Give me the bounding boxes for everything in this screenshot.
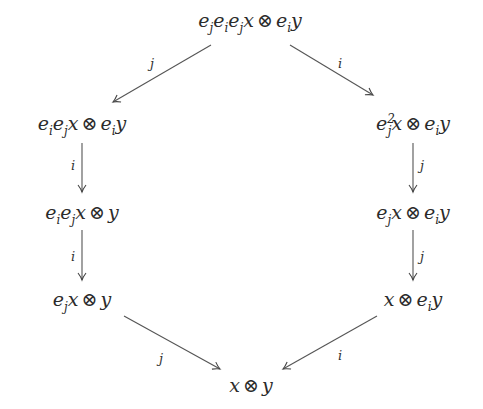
arrow-top-right1 bbox=[290, 45, 373, 95]
node-right2: ejx⊗eiy bbox=[376, 203, 449, 222]
node-left3: ejx⊗y bbox=[53, 290, 111, 309]
hexagon-diagram: ejeiejx⊗eiy eiejx⊗eiy eiejx⊗y ejx⊗y e2jx… bbox=[0, 0, 483, 409]
node-left2: eiejx⊗y bbox=[45, 203, 118, 222]
node-right3: x⊗eiy bbox=[384, 290, 442, 309]
arrow-right3-bottom bbox=[283, 316, 377, 369]
edge-label-left2-left3: i bbox=[71, 249, 75, 264]
edge-label-top-right1: i bbox=[338, 56, 342, 71]
edge-label-left3-bottom: j bbox=[159, 351, 163, 366]
edge-label-right1-right2: j bbox=[420, 158, 424, 173]
node-bottom: x⊗y bbox=[229, 376, 272, 395]
edge-label-top-left1: j bbox=[150, 56, 154, 71]
node-top: ejeiejx⊗eiy bbox=[198, 11, 302, 30]
edge-label-right2-right3: j bbox=[420, 249, 424, 264]
edge-label-left1-left2: i bbox=[71, 158, 75, 173]
arrow-top-left1 bbox=[113, 45, 211, 102]
node-left1: eiejx⊗eiy bbox=[38, 114, 127, 133]
edge-label-right3-bottom: i bbox=[338, 348, 342, 363]
arrow-left3-bottom bbox=[124, 316, 220, 369]
node-right1: e2jx⊗eiy bbox=[376, 114, 450, 133]
